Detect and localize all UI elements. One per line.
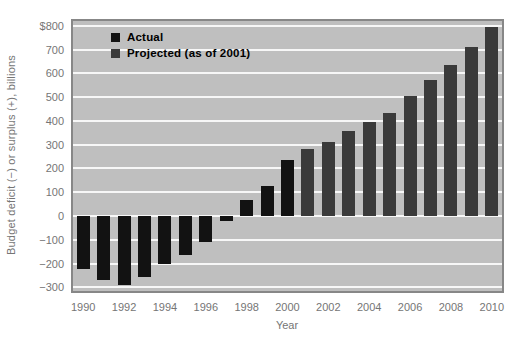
x-tick-label-2006: 2006 xyxy=(385,301,435,313)
y-tick-label-400: 400 xyxy=(0,115,64,127)
plot-area: Actual Projected (as of 2001) xyxy=(71,19,504,293)
bar-1998 xyxy=(240,200,253,216)
bar-1995 xyxy=(179,216,192,255)
bar-2004 xyxy=(363,122,376,216)
budget-chart-figure: Budget deficit (−) or surplus (+), billi… xyxy=(0,0,521,348)
y-tick-label--300: −300 xyxy=(0,281,64,293)
bar-2003 xyxy=(342,131,355,216)
bar-2009 xyxy=(465,47,478,216)
bar-1997 xyxy=(220,216,233,221)
legend-label-projected: Projected (as of 2001) xyxy=(127,47,250,59)
gridline xyxy=(73,96,502,98)
bar-2007 xyxy=(424,80,437,216)
bar-2006 xyxy=(404,96,417,216)
x-tick-label-1990: 1990 xyxy=(58,301,108,313)
bar-1994 xyxy=(158,216,171,264)
gridline xyxy=(73,286,502,288)
x-tick-label-1994: 1994 xyxy=(140,301,190,313)
gridline xyxy=(73,72,502,74)
x-axis-title: Year xyxy=(262,319,312,331)
y-tick-label--200: −200 xyxy=(0,258,64,270)
bar-2000 xyxy=(281,160,294,216)
y-tick-label-500: 500 xyxy=(0,91,64,103)
y-tick-label--100: −100 xyxy=(0,234,64,246)
bar-1991 xyxy=(97,216,110,280)
y-tick-label-200: 200 xyxy=(0,162,64,174)
bar-2002 xyxy=(322,142,335,216)
x-tick-label-1998: 1998 xyxy=(222,301,272,313)
x-tick-label-2004: 2004 xyxy=(344,301,394,313)
x-tick-label-2002: 2002 xyxy=(303,301,353,313)
bar-1990 xyxy=(77,216,90,269)
x-tick-label-2000: 2000 xyxy=(263,301,313,313)
bar-2010 xyxy=(485,27,498,216)
y-tick-label-700: 700 xyxy=(0,44,64,56)
bar-1996 xyxy=(199,216,212,241)
x-tick-label-2008: 2008 xyxy=(426,301,476,313)
bar-1992 xyxy=(118,216,131,285)
y-tick-label-800: $800 xyxy=(0,20,64,32)
x-tick-label-2010: 2010 xyxy=(467,301,517,313)
bar-2005 xyxy=(383,113,396,216)
legend-item-projected: Projected (as of 2001) xyxy=(111,45,250,61)
gridline xyxy=(73,144,502,146)
actual-series-swatch-icon xyxy=(111,33,120,42)
gridline xyxy=(73,25,502,27)
y-tick-label-0: 0 xyxy=(0,210,64,222)
legend-item-actual: Actual xyxy=(111,29,250,45)
x-tick-label-1992: 1992 xyxy=(99,301,149,313)
bar-1999 xyxy=(261,186,274,216)
y-tick-label-300: 300 xyxy=(0,139,64,151)
bar-2008 xyxy=(444,65,457,216)
legend: Actual Projected (as of 2001) xyxy=(111,29,250,61)
x-tick-label-1996: 1996 xyxy=(181,301,231,313)
y-axis-tick-labels: $8007006005004003002001000−100−200−300 xyxy=(0,0,64,348)
projected-series-swatch-icon xyxy=(111,49,120,58)
gridline xyxy=(73,120,502,122)
legend-label-actual: Actual xyxy=(127,31,163,43)
y-tick-label-600: 600 xyxy=(0,67,64,79)
y-tick-label-100: 100 xyxy=(0,186,64,198)
bar-1993 xyxy=(138,216,151,277)
bar-2001 xyxy=(301,149,314,216)
